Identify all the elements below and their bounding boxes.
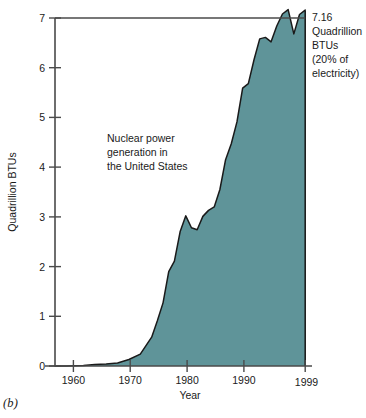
x-tick-label-1990: 1990 [232, 374, 256, 386]
series-label-line-2: generation in [107, 146, 168, 158]
callout-line-2: Quadrillion [312, 25, 362, 37]
figure-panel: 7 6 5 4 3 2 1 0 1960 1970 1980 1990 1999… [0, 0, 366, 418]
y-tick-label-1: 1 [39, 310, 45, 322]
series-label-line-3: the United States [107, 160, 188, 172]
y-tick-label-3: 3 [39, 211, 45, 223]
x-tick-label-1980: 1980 [175, 374, 199, 386]
callout-line-3: BTUs [312, 39, 338, 51]
y-tick-label-5: 5 [39, 111, 45, 123]
y-tick-label-6: 6 [39, 62, 45, 74]
x-tick-label-1970: 1970 [119, 374, 143, 386]
y-tick-label-4: 4 [39, 161, 45, 173]
callout-line-5: electricity) [312, 67, 359, 79]
panel-caption: (b) [3, 396, 18, 411]
y-tick-label-0: 0 [39, 360, 45, 372]
y-tick-label-7: 7 [39, 12, 45, 24]
area-chart: 7 6 5 4 3 2 1 0 1960 1970 1980 1990 1999… [0, 0, 366, 418]
y-axis-tick-labels: 7 6 5 4 3 2 1 0 [39, 12, 45, 372]
series-label-line-1: Nuclear power [107, 132, 175, 144]
x-axis-title: Year [179, 389, 201, 401]
x-tick-label-1960: 1960 [62, 374, 86, 386]
y-tick-label-2: 2 [39, 261, 45, 273]
callout-line-1: 7.16 [312, 11, 333, 23]
callout-line-4: (20% of [312, 53, 348, 65]
x-axis-tick-labels: 1960 1970 1980 1990 1999 [62, 374, 319, 388]
y-axis-title: Quadrillion BTUs [6, 152, 18, 231]
x-tick-label-1999: 1999 [295, 376, 319, 388]
endpoint-callout-annotation: 7.16 Quadrillion BTUs (20% of electricit… [312, 11, 362, 79]
